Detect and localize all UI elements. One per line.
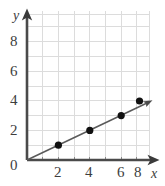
origin-label: 0 — [10, 158, 18, 173]
x-axis-label: x — [151, 167, 157, 181]
y-axis-label: y — [13, 9, 19, 23]
chart-canvas — [0, 0, 165, 186]
data-point — [55, 142, 62, 149]
y-tick-label-4: 4 — [10, 93, 18, 108]
data-point — [118, 112, 125, 119]
x-tick-label-2: 2 — [54, 165, 62, 180]
y-tick-label-8: 8 — [10, 34, 18, 49]
coordinate-plane-chart: y x 8 6 4 2 0 2 4 6 8 — [0, 0, 165, 186]
data-point — [136, 97, 143, 104]
y-tick-label-2: 2 — [10, 123, 18, 138]
grid-lines — [27, 11, 150, 160]
x-tick-label-8: 8 — [134, 165, 142, 180]
x-tick-label-4: 4 — [85, 165, 93, 180]
y-tick-label-6: 6 — [10, 64, 18, 79]
data-point — [86, 127, 93, 134]
y-axis — [22, 9, 32, 161]
x-tick-label-6: 6 — [117, 165, 125, 180]
